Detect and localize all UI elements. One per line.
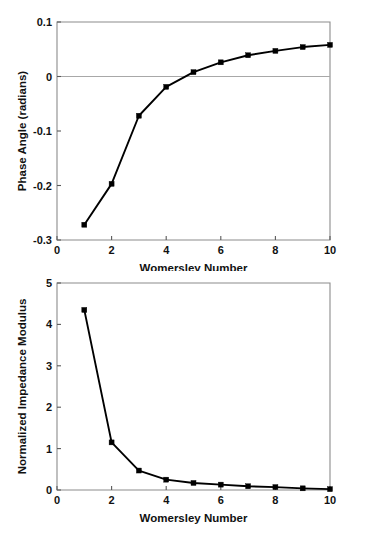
- y-tick-label: 5: [46, 277, 52, 289]
- data-point-marker: [273, 485, 278, 490]
- data-point-marker: [191, 480, 196, 485]
- y-tick-label: 4: [46, 318, 53, 330]
- x-axis-title: Womersley Number: [140, 262, 248, 271]
- data-point-marker: [164, 477, 169, 482]
- plot-frame: [57, 22, 330, 240]
- y-tick-label: -0.2: [33, 180, 52, 192]
- x-tick-label: 0: [54, 494, 60, 506]
- impedance-modulus-figure: 0246810012345Womersley NumberNormalized …: [0, 271, 369, 542]
- data-point-marker: [136, 113, 141, 118]
- data-point-marker: [109, 440, 114, 445]
- data-point-marker: [191, 70, 196, 75]
- series-line: [84, 310, 330, 489]
- y-axis-title: Normalized Impedance Modulus: [16, 299, 28, 475]
- data-point-marker: [109, 181, 114, 186]
- x-tick-label: 6: [218, 244, 224, 256]
- data-point-marker: [246, 484, 251, 489]
- data-point-marker: [82, 307, 87, 312]
- phase-angle-figure: 02468100.10-0.1-0.2-0.3Womersley NumberP…: [0, 0, 369, 271]
- x-tick-label: 10: [324, 244, 336, 256]
- y-tick-label: 3: [46, 360, 52, 372]
- x-tick-label: 2: [109, 494, 115, 506]
- data-point-marker: [328, 42, 333, 47]
- y-tick-label: -0.1: [33, 125, 52, 137]
- x-axis-title: Womersley Number: [140, 512, 248, 524]
- x-tick-label: 0: [54, 244, 60, 256]
- phase-angle-plot: 02468100.10-0.1-0.2-0.3Womersley NumberP…: [0, 0, 369, 271]
- y-tick-label: 0: [46, 71, 52, 83]
- data-point-marker: [82, 222, 87, 227]
- y-tick-label: -0.3: [33, 234, 52, 246]
- data-point-marker: [218, 482, 223, 487]
- data-point-marker: [273, 48, 278, 53]
- impedance-modulus-plot: 0246810012345Womersley NumberNormalized …: [0, 271, 369, 542]
- y-tick-label: 0: [46, 484, 52, 496]
- x-tick-label: 6: [218, 494, 224, 506]
- x-tick-label: 4: [163, 244, 170, 256]
- x-tick-label: 8: [272, 244, 278, 256]
- y-tick-label: 1: [46, 443, 52, 455]
- data-point-marker: [246, 53, 251, 58]
- data-point-marker: [328, 487, 333, 492]
- data-point-marker: [300, 486, 305, 491]
- x-tick-label: 4: [163, 494, 170, 506]
- y-axis-title: Phase Angle (radians): [16, 71, 28, 192]
- y-tick-label: 0.1: [37, 16, 52, 28]
- data-point-marker: [136, 468, 141, 473]
- data-point-marker: [218, 60, 223, 65]
- x-tick-label: 2: [109, 244, 115, 256]
- y-tick-label: 2: [46, 401, 52, 413]
- data-point-marker: [300, 45, 305, 50]
- series-line: [84, 45, 330, 225]
- x-tick-label: 8: [272, 494, 278, 506]
- data-point-marker: [164, 84, 169, 89]
- plot-frame: [57, 283, 330, 490]
- x-tick-label: 10: [324, 494, 336, 506]
